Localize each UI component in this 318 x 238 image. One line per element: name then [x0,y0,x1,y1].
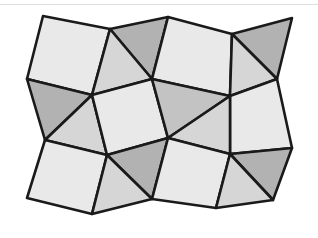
tiles-layer [27,16,292,214]
figure-canvas: Tessellation of squares and triangles A … [0,0,318,238]
tessellation-diagram: Tessellation of squares and triangles A … [0,0,318,238]
